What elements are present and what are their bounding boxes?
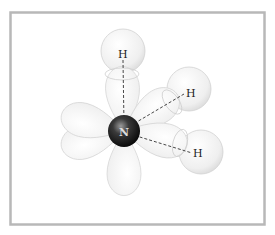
nitrogen-label: N [119, 126, 129, 139]
nh3-orbital-diagram: N H H H [0, 0, 275, 235]
hydrogen-label-lower-right: H [193, 147, 203, 160]
hydrogen-label-top: H [118, 48, 128, 61]
hydrogen-label-upper-right: H [186, 87, 196, 100]
